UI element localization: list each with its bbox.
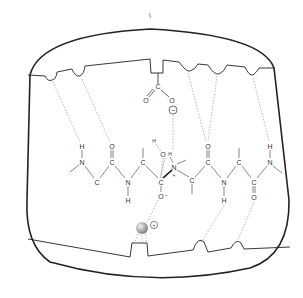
metal-ion-icon: [136, 222, 148, 234]
svg-text:O: O: [109, 143, 115, 150]
svg-text:C: C: [251, 179, 256, 186]
wedge-bond: [163, 170, 172, 178]
svg-text:C: C: [109, 159, 114, 166]
nitrogen-positive-charge: +: [173, 172, 176, 178]
enzyme-outline: [27, 29, 289, 278]
svg-text:C: C: [189, 177, 194, 184]
carboxylate-carbon: C: [155, 83, 160, 90]
svg-text:O⁻: O⁻: [158, 193, 167, 200]
svg-text:O: O: [251, 194, 257, 201]
enzyme-active-site-diagram: \ C O O −: [0, 0, 303, 298]
svg-text:C: C: [236, 159, 241, 166]
svg-text:N: N: [125, 179, 130, 186]
svg-text:N: N: [171, 164, 176, 171]
svg-text:O: O: [205, 143, 211, 150]
svg-text:N: N: [221, 179, 226, 186]
svg-text:C: C: [94, 179, 99, 186]
svg-text:C: C: [205, 159, 210, 166]
svg-text:+: +: [153, 222, 156, 228]
lower-pocket-surface: [28, 239, 290, 257]
top-mark: \: [149, 12, 151, 19]
svg-text:H: H: [125, 197, 130, 204]
svg-text:H: H: [152, 138, 156, 144]
svg-text:H: H: [168, 151, 172, 157]
svg-text:N: N: [79, 159, 84, 166]
diagram-canvas: \ C O O −: [0, 0, 303, 298]
svg-text:H: H: [79, 143, 84, 150]
svg-text:H: H: [267, 143, 272, 150]
svg-text:H: H: [221, 197, 226, 204]
svg-text:O: O: [160, 151, 166, 158]
svg-text:C: C: [158, 179, 163, 186]
svg-text:N: N: [267, 159, 272, 166]
atom-labels: N H C C O N H C C O⁻ O H N H C C O N H C…: [79, 138, 272, 204]
carboxylate-oxygen-2: O: [169, 97, 175, 104]
upper-pocket-surface: [28, 59, 275, 81]
peptide-backbone: [70, 148, 282, 196]
svg-text:C: C: [140, 159, 145, 166]
carboxylate-oxygen-1: O: [143, 97, 149, 104]
svg-text:−: −: [171, 107, 175, 114]
